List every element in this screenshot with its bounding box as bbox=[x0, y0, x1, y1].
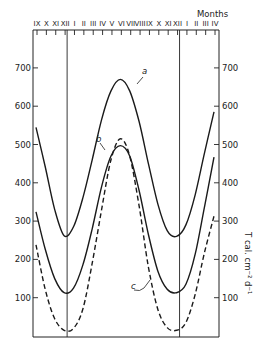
x-tick-label: III bbox=[90, 20, 96, 28]
curves bbox=[36, 79, 214, 331]
x-tick-label: IV bbox=[99, 20, 106, 28]
right-axis-title: T cal. cm⁻² d⁻¹ bbox=[243, 231, 253, 294]
curve-c bbox=[36, 139, 214, 332]
y-tick-label-right: 600 bbox=[222, 101, 238, 111]
y-tick-label-right: 500 bbox=[222, 140, 238, 150]
curve-label-c: c bbox=[131, 281, 136, 291]
curve-label-a: a bbox=[142, 66, 147, 76]
y-axis-right: 100200300400500600700 bbox=[214, 63, 238, 303]
y-tick-label-right: 100 bbox=[222, 293, 238, 303]
x-tick-label: IX bbox=[34, 20, 41, 28]
y-tick-label-right: 300 bbox=[222, 216, 238, 226]
y-tick-label-right: 200 bbox=[222, 254, 238, 264]
curve-c-label: c bbox=[131, 280, 150, 291]
x-tick-label: VI bbox=[118, 20, 125, 28]
curve-a-label: a bbox=[137, 66, 147, 84]
x-tick-label: I bbox=[186, 20, 188, 28]
x-tick-label: XII bbox=[173, 20, 182, 28]
y-tick-label-left: 400 bbox=[15, 178, 31, 188]
y-axis-left: 100200300400500600700 bbox=[15, 63, 38, 303]
curve-label-b: b bbox=[96, 134, 101, 144]
curve-a bbox=[36, 79, 214, 236]
x-tick-label: I bbox=[73, 20, 75, 28]
curve-b-label: b bbox=[96, 134, 105, 150]
x-tick-label: X bbox=[44, 20, 49, 28]
x-tick-label: IV bbox=[212, 20, 219, 28]
x-tick-label: XI bbox=[165, 20, 172, 28]
x-tick-label: XI bbox=[52, 20, 59, 28]
y-tick-label-right: 400 bbox=[222, 178, 238, 188]
y-tick-label-left: 300 bbox=[15, 216, 31, 226]
x-tick-label: V bbox=[110, 20, 115, 28]
y-tick-label-left: 500 bbox=[15, 140, 31, 150]
x-tick-label: XII bbox=[61, 20, 70, 28]
x-tick-label: III bbox=[203, 20, 209, 28]
y-tick-label-left: 700 bbox=[15, 63, 31, 73]
x-axis-months: IXXXIXIIIIIIIIIVVVIVIIVIIIIXXXIXIIIIIIII… bbox=[34, 20, 219, 35]
y-tick-label-right: 700 bbox=[222, 63, 238, 73]
y-tick-label-left: 200 bbox=[15, 254, 31, 264]
y-tick-label-left: 600 bbox=[15, 101, 31, 111]
x-tick-label: II bbox=[194, 20, 198, 28]
axes-lines bbox=[33, 30, 219, 337]
x-tick-label: IX bbox=[146, 20, 153, 28]
x-tick-label: VIII bbox=[135, 20, 146, 28]
x-axis-title: Months bbox=[197, 9, 229, 19]
x-tick-label: II bbox=[82, 20, 86, 28]
y-tick-label-left: 100 bbox=[15, 293, 31, 303]
plot-frame bbox=[33, 30, 219, 337]
chart: IXXXIXIIIIIIIIIVVVIVIIVIIIIXXXIXIIIIIIII… bbox=[0, 0, 257, 349]
x-tick-label: X bbox=[156, 20, 161, 28]
